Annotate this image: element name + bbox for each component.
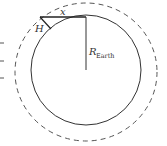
label-r-subscript: Earth (96, 52, 115, 60)
earth-horizon-diagram: x H R Earth (0, 0, 167, 146)
label-x: x (60, 6, 66, 17)
label-h: H (34, 23, 44, 34)
